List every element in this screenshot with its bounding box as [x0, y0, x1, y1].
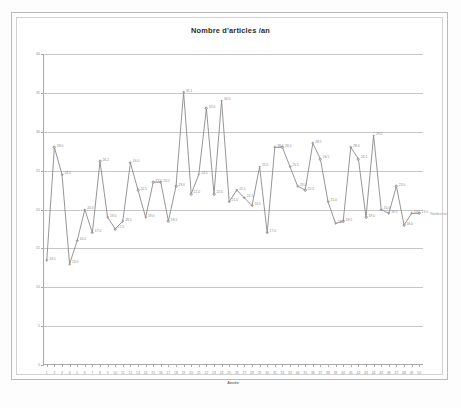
- x-axis-tick-label: 20: [189, 371, 193, 375]
- x-axis-tick-label: 17: [167, 371, 171, 375]
- x-axis-tick-label: 35: [303, 371, 307, 375]
- data-point-marker: [68, 263, 71, 266]
- x-axis-tick-mark: [389, 365, 390, 367]
- data-point-marker: [319, 158, 322, 161]
- data-point-marker: [236, 189, 239, 192]
- x-axis-tick-label: 4: [69, 371, 71, 375]
- data-point-marker: [327, 200, 330, 203]
- x-axis-tick-label: 43: [364, 371, 368, 375]
- x-axis-tick-label: 40: [341, 371, 345, 375]
- screenshot-page: Nombre d'articles /an 0510152025303540 1…: [0, 0, 461, 408]
- y-axis-tick-label: 35: [29, 91, 40, 95]
- x-axis-tick-mark: [381, 365, 382, 367]
- x-axis-tick-mark: [252, 365, 253, 367]
- data-point-marker: [350, 146, 353, 149]
- data-point-label: 22.0: [194, 190, 200, 194]
- x-axis-tick-mark: [138, 365, 139, 367]
- data-point-marker: [53, 146, 56, 149]
- data-point-label: 35.1: [186, 89, 192, 93]
- x-axis-tick-label: 15: [151, 371, 155, 375]
- x-axis-tick-label: 3: [61, 371, 63, 375]
- data-point-label: 16.0: [80, 237, 86, 241]
- data-point-label: 22.5: [308, 187, 314, 191]
- x-axis-tick-label: 7: [91, 371, 93, 375]
- data-point-marker: [175, 185, 178, 188]
- y-axis-tick-label: 25: [29, 169, 40, 173]
- x-axis-tick-mark: [328, 365, 329, 367]
- x-axis-tick-mark: [176, 365, 177, 367]
- x-axis-tick-mark: [282, 365, 283, 367]
- data-point-label: 25.5: [292, 163, 298, 167]
- data-point-label: 18.5: [171, 218, 177, 222]
- data-point-marker: [76, 239, 79, 242]
- x-axis-tick-label: 29: [258, 371, 262, 375]
- data-point-marker: [137, 189, 140, 192]
- data-point-label: 18.5: [125, 218, 131, 222]
- x-axis-tick-mark: [374, 365, 375, 367]
- chart-plot-area: 0510152025303540 12345678910111213141516…: [43, 54, 423, 365]
- x-axis-tick-mark: [191, 365, 192, 367]
- x-axis-tick-label: 42: [357, 371, 361, 375]
- data-point-marker: [395, 185, 398, 188]
- x-axis-tick-mark: [419, 365, 420, 367]
- data-point-marker: [46, 259, 49, 262]
- chart-title: Nombre d'articles /an: [12, 26, 449, 35]
- data-point-label: 23.5: [163, 179, 169, 183]
- data-point-marker: [312, 142, 315, 145]
- data-point-label: 33.0: [209, 105, 215, 109]
- data-point-marker: [296, 185, 299, 188]
- series-polyline: [47, 92, 419, 264]
- x-axis-tick-mark: [168, 365, 169, 367]
- x-axis-tick-mark: [47, 365, 48, 367]
- x-axis-tick-mark: [404, 365, 405, 367]
- x-axis-tick-label: 33: [288, 371, 292, 375]
- x-axis-tick-label: 18: [174, 371, 178, 375]
- x-axis-tick-label: 45: [379, 371, 383, 375]
- x-axis-tick-mark: [130, 365, 131, 367]
- data-point-marker: [403, 224, 406, 227]
- x-axis-tick-mark: [206, 365, 207, 367]
- data-point-marker: [357, 158, 360, 161]
- x-axis-tick-label: 12: [129, 371, 133, 375]
- data-point-label: 22.5: [140, 187, 146, 191]
- x-axis-tick-mark: [184, 365, 185, 367]
- data-point-label: 24.5: [64, 171, 70, 175]
- x-axis-tick-label: 37: [319, 371, 323, 375]
- data-point-label: 34.0: [224, 97, 230, 101]
- y-axis-tick-label: 40: [29, 52, 40, 56]
- x-axis-tick-label: 11: [121, 371, 125, 375]
- data-point-label: 21.0: [330, 198, 336, 202]
- data-point-marker: [289, 165, 292, 168]
- x-axis-tick-mark: [237, 365, 238, 367]
- data-point-label: 18.5: [346, 218, 352, 222]
- x-axis-tick-mark: [298, 365, 299, 367]
- data-point-label: 26.5: [361, 155, 367, 159]
- data-point-marker: [266, 232, 269, 235]
- data-point-marker: [205, 107, 208, 110]
- x-axis-tick-label: 26: [235, 371, 239, 375]
- x-axis-tick-mark: [214, 365, 215, 367]
- data-point-marker: [182, 91, 185, 94]
- x-axis-tick-mark: [412, 365, 413, 367]
- data-point-marker: [365, 216, 368, 219]
- x-axis-tick-mark: [100, 365, 101, 367]
- x-axis-tick-mark: [108, 365, 109, 367]
- x-axis-tick-label: 38: [326, 371, 330, 375]
- x-axis-tick-mark: [320, 365, 321, 367]
- x-axis-tick-label: 39: [334, 371, 338, 375]
- data-point-label: 19.0: [368, 214, 374, 218]
- x-axis-tick-mark: [229, 365, 230, 367]
- x-axis-tick-label: 32: [281, 371, 285, 375]
- x-axis-tick-mark: [244, 365, 245, 367]
- x-axis-tick-mark: [70, 365, 71, 367]
- data-point-label: 17.0: [270, 229, 276, 233]
- data-point-marker: [372, 134, 375, 137]
- x-axis-tick-mark: [351, 365, 352, 367]
- x-axis-tick-mark: [115, 365, 116, 367]
- x-axis-tick-mark: [146, 365, 147, 367]
- data-point-label: 22.0: [216, 190, 222, 194]
- data-point-marker: [106, 216, 109, 219]
- x-axis-tick-label: 14: [144, 371, 148, 375]
- y-axis-tick-label: 30: [29, 130, 40, 134]
- data-point-label: 19.0: [110, 214, 116, 218]
